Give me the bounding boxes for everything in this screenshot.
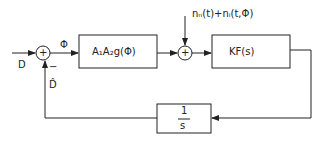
- loop-filter-label: KF(s): [229, 47, 254, 57]
- integrator-numerator: 1: [181, 106, 187, 116]
- feedback-path-left: [45, 61, 157, 118]
- input-label: D: [18, 60, 26, 70]
- gain-block-label: A₁A₂g(Φ): [92, 47, 136, 57]
- integrator-denominator: s: [180, 121, 185, 131]
- feedback-path-right: [212, 50, 311, 118]
- error-label: Φ: [60, 40, 68, 50]
- sum1-plus: +: [39, 48, 47, 58]
- noise-label: nₙ(t)+nᵢ(t,Φ): [192, 9, 253, 19]
- feedback-label: D̂: [49, 80, 57, 90]
- minus-sign: −: [49, 62, 57, 72]
- sum2-plus: +: [181, 48, 189, 58]
